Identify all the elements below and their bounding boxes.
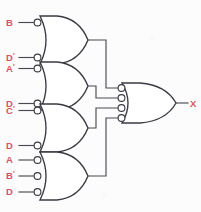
- gate-output-input-bubble-4: [118, 115, 125, 122]
- gate-3-input-bubble-1: [34, 107, 41, 114]
- gate-1-input-bubble-1: [34, 19, 41, 26]
- gate-2-input-bubble-1: [34, 65, 41, 72]
- gate-output-input-bubble-1: [118, 85, 125, 92]
- gate-3-input-bubble-2: [34, 142, 41, 149]
- input-label-gate1-1: B: [6, 17, 13, 28]
- gate-1-input-bubble-2: [34, 54, 41, 61]
- gate-output[interactable]: [118, 83, 188, 123]
- gate-output-input-bubble-3: [118, 105, 125, 112]
- gate-4-body: [40, 152, 88, 200]
- input-label-gate3-1: C′: [6, 105, 15, 116]
- input-label-gate4-2: B′: [6, 170, 15, 181]
- gate-4-input-bubble-1: [34, 157, 41, 164]
- input-label-gate4-3: D: [6, 186, 13, 197]
- gate-3-body: [40, 104, 88, 152]
- gate-4-input-bubble-2: [34, 173, 41, 180]
- gate-1-body: [40, 16, 88, 64]
- input-label-gate2-1: A′: [6, 63, 15, 74]
- gate-2-body: [40, 62, 88, 110]
- input-label-gate4-1: A: [6, 154, 13, 165]
- gate-1-output-wire: [88, 40, 119, 88]
- input-label-gate3-2: D: [6, 140, 13, 151]
- circuit-canvas: B D′ A′ D C′ D A B′ D X: [0, 0, 201, 212]
- gate-output-body: [122, 83, 176, 123]
- gate-4-output-wire: [88, 118, 119, 176]
- gate-output-input-bubble-2: [118, 95, 125, 102]
- input-label-gate1-2: D′: [6, 52, 15, 63]
- gate-3[interactable]: [19, 104, 119, 152]
- output-label-x: X: [190, 98, 197, 109]
- logic-circuit-diagram: B D′ A′ D C′ D A B′ D X: [0, 0, 201, 212]
- gate-2[interactable]: [19, 62, 119, 110]
- gate-4-input-bubble-3: [34, 189, 41, 196]
